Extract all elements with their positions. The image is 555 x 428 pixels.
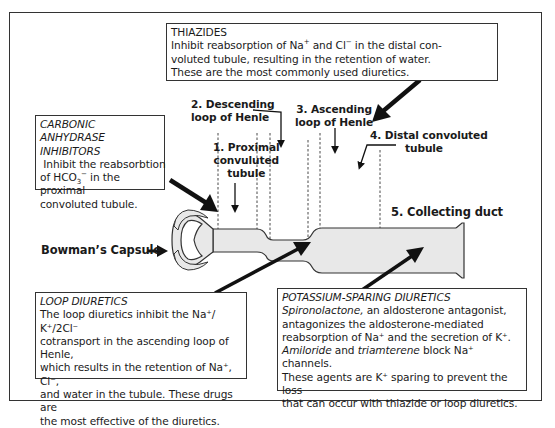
triamterene-term: triamterene: [358, 344, 420, 356]
thiazides-line1-mid: and Cl: [309, 39, 345, 51]
label-descending-loop: 2. Descending loop of Henle: [191, 98, 274, 124]
label-ascending-line1: 3. Ascending: [295, 103, 373, 116]
thiazides-title: THIAZIDES: [171, 26, 493, 39]
amiloride-term: Amiloride: [282, 344, 332, 356]
label-distal-line1: 4. Distal convoluted: [370, 129, 488, 142]
thiazides-box: THIAZIDES Inhibit reabsorption of Na+ an…: [166, 23, 498, 81]
loop-line1: The loop diuretics inhibit the Na⁺/ K⁺/2…: [40, 308, 242, 335]
label-ascending-line2: loop of Henle: [295, 116, 373, 129]
loop-line3: which results in the retention of Na⁺, C…: [40, 361, 242, 388]
collecting-duct-end: [456, 223, 464, 278]
loop-line4: and water in the tubule. These drugs are: [40, 388, 242, 415]
thiazides-line1-end: in the distal con-: [352, 39, 442, 51]
spironolactone-term: Spironolactone,: [282, 304, 363, 316]
ksparing-line1: Spironolactone, an aldosterone antagonis…: [282, 304, 522, 317]
carbonic-title-line2: INHIBITORS: [40, 145, 160, 158]
label-descending-line2: loop of Henle: [191, 111, 274, 124]
thiazide-arrow: [372, 80, 420, 122]
carbonic-line2: of HCO3− in the proximal: [40, 171, 160, 198]
label-descending-line1: 2. Descending: [191, 98, 274, 111]
carbonic-line2-text: of HCO: [40, 171, 77, 183]
carbonic-title-line1: CARBONIC ANHYDRASE: [40, 118, 160, 145]
loop-line5: the most effective of the diuretics.: [40, 415, 242, 428]
thiazides-line1-text: Inhibit reabsorption of Na: [171, 39, 304, 51]
ksparing-line6: that can occur with thiazide or loop diu…: [282, 397, 522, 410]
loop-line2: cotransport in the ascending loop of Hen…: [40, 335, 242, 362]
ksparing-line5: These agents are K⁺ sparing to prevent t…: [282, 371, 522, 398]
label-proximal-line3: tubule: [213, 167, 280, 180]
tubule-shape: [213, 228, 460, 273]
label-collecting-duct: 5. Collecting duct: [391, 206, 503, 219]
thiazides-line3: These are the most commonly used diureti…: [171, 66, 493, 79]
label-distal-line2: tubule: [370, 142, 488, 155]
carbonic-line1: Inhibit the reabsorbtion: [40, 158, 160, 171]
thiazides-line2: voluted tubule, resulting in the retenti…: [171, 53, 493, 66]
thiazides-line1: Inhibit reabsorption of Na+ and Cl− in t…: [171, 39, 493, 52]
label-proximal-line2: convuluted: [213, 154, 280, 167]
carbonic-line3: convoluted tubule.: [40, 198, 160, 211]
ksparing-line4: Amiloride and triamterene block Na⁺ chan…: [282, 344, 522, 371]
label-bowmans-capsule: Bowman’s Capsule: [41, 244, 161, 257]
label-distal-tubule: 4. Distal convoluted tubule: [370, 129, 488, 155]
ksparing-line4-mid: and: [332, 344, 358, 356]
label-proximal-line1: 1. Proximal: [213, 141, 280, 154]
ksparing-line3: reabsorption of Na⁺ and the secretion of…: [282, 331, 522, 344]
label-proximal-tubule: 1. Proximal convuluted tubule: [213, 141, 280, 180]
loop-title: LOOP DIURETICS: [40, 295, 242, 308]
potassium-sparing-box: POTASSIUM-SPARING DIURETICS Spironolacto…: [277, 288, 527, 391]
ksparing-line2: antagonizes the aldosterone-mediated: [282, 318, 522, 331]
label-ascending-loop: 3. Ascending loop of Henle: [295, 103, 373, 129]
ksparing-title: POTASSIUM-SPARING DIURETICS: [282, 291, 522, 304]
carbonic-anhydrase-arrow: [170, 180, 218, 212]
carbonic-anhydrase-box: CARBONIC ANHYDRASE INHIBITORS Inhibit th…: [35, 115, 165, 190]
loop-diuretics-box: LOOP DIURETICS The loop diuretics inhibi…: [35, 292, 247, 379]
ksparing-line1-end: an aldosterone antagonist,: [363, 304, 506, 316]
